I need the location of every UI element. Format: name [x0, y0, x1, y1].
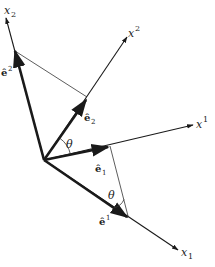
svg-text:1: 1	[203, 115, 208, 124]
svg-text:1: 1	[188, 252, 193, 261]
label-x-sub-1: x 1	[181, 246, 193, 261]
label-e-sub-1: ê 1	[95, 163, 106, 177]
theta-label-top: θ	[66, 138, 73, 151]
svg-text:2: 2	[135, 24, 140, 33]
vector-e-sub-1	[44, 147, 108, 160]
svg-text:ê: ê	[99, 216, 105, 227]
svg-text:2: 2	[91, 118, 95, 126]
svg-text:1: 1	[106, 214, 110, 222]
angle-arc-bottom	[114, 200, 124, 209]
svg-text:ê: ê	[84, 112, 90, 123]
svg-text:x: x	[196, 118, 203, 131]
label-e-sub-2: ê 2	[84, 112, 95, 126]
oblique-basis-diagram: x 2 x 2 x 1 x 1 ê 2 ê 2 ê 1 ê 1 θ θ	[0, 0, 215, 267]
label-e-sup-1: ê 1	[99, 214, 110, 227]
svg-text:x: x	[128, 27, 135, 40]
svg-text:ê: ê	[1, 67, 7, 78]
svg-text:x: x	[4, 4, 11, 17]
svg-text:ê: ê	[95, 163, 101, 174]
vector-e-sub-2	[44, 100, 86, 160]
svg-text:2: 2	[11, 10, 16, 19]
label-x-sup-2: x 2	[128, 24, 140, 40]
label-x-sup-1: x 1	[196, 115, 208, 131]
label-e-sup-2: ê 2	[1, 65, 12, 78]
theta-label-bottom: θ	[108, 189, 115, 202]
label-x-sub-2: x 2	[4, 4, 16, 19]
svg-text:2: 2	[8, 65, 12, 73]
vector-e-sup-2	[15, 51, 44, 160]
svg-text:1: 1	[102, 169, 106, 177]
svg-text:x: x	[181, 246, 188, 259]
